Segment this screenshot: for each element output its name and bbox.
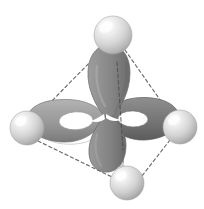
orbital-figure: d-orbital in a tetrahedral coordination … — [0, 0, 204, 209]
ligand-left — [10, 111, 44, 145]
ligand-left-sphere — [10, 111, 44, 145]
ligand-bottom-sphere — [110, 166, 144, 200]
ligand-top — [94, 16, 132, 54]
ligand-right-sphere — [163, 110, 197, 144]
ligand-bottom — [110, 166, 144, 200]
ligand-right — [163, 110, 197, 144]
orbital-diagram-canvas — [0, 0, 204, 209]
ligand-top-sphere — [94, 16, 132, 54]
